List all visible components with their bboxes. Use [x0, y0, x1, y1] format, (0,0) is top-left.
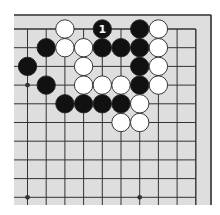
white-stone[interactable] [74, 76, 92, 94]
star-point [25, 83, 30, 88]
black-stone-disc [93, 95, 111, 113]
black-stone-disc [112, 39, 130, 57]
white-stone[interactable] [56, 20, 74, 38]
black-stone[interactable] [131, 20, 149, 38]
black-stone-disc [131, 20, 149, 38]
white-stone[interactable] [56, 39, 74, 57]
white-stone-disc [149, 20, 167, 38]
white-stone[interactable] [131, 95, 149, 113]
black-stone-disc [112, 95, 130, 113]
white-stone-disc [112, 113, 130, 131]
white-stone-disc [131, 113, 149, 131]
black-stone-disc [131, 76, 149, 94]
black-stone[interactable] [56, 95, 74, 113]
white-stone[interactable] [112, 76, 130, 94]
white-stone[interactable] [149, 39, 167, 57]
white-stone[interactable] [149, 76, 167, 94]
black-stone-disc [56, 95, 74, 113]
white-stone-disc [149, 39, 167, 57]
black-stone[interactable] [37, 39, 55, 57]
black-stone[interactable] [37, 76, 55, 94]
black-stone[interactable] [112, 95, 130, 113]
star-point [137, 195, 142, 200]
white-stone[interactable] [149, 57, 167, 75]
star-point [25, 195, 30, 200]
black-stone-disc [18, 57, 36, 75]
white-stone-disc [131, 95, 149, 113]
white-stone-disc [56, 39, 74, 57]
black-stone[interactable] [131, 57, 149, 75]
black-stone[interactable] [18, 57, 36, 75]
white-stone[interactable] [149, 20, 167, 38]
white-stone[interactable] [131, 113, 149, 131]
black-stone[interactable] [131, 76, 149, 94]
white-stone-disc [74, 39, 92, 57]
black-stone[interactable] [131, 39, 149, 57]
white-stone-disc [74, 76, 92, 94]
white-stone-disc [112, 76, 130, 94]
white-stone-disc [149, 57, 167, 75]
white-stone[interactable] [112, 113, 130, 131]
white-stone-disc [74, 57, 92, 75]
white-stone-disc [149, 76, 167, 94]
black-stone[interactable] [74, 95, 92, 113]
black-stone[interactable]: 1 [93, 20, 111, 38]
move-number-label: 1 [98, 23, 106, 36]
black-stone-disc [74, 95, 92, 113]
white-stone[interactable] [93, 76, 111, 94]
white-stone-disc [56, 20, 74, 38]
white-stone-disc [93, 76, 111, 94]
white-stone[interactable] [74, 39, 92, 57]
black-stone[interactable] [93, 39, 111, 57]
black-stone[interactable] [112, 39, 130, 57]
black-stone-disc [93, 39, 111, 57]
black-stone-disc [131, 39, 149, 57]
white-stone[interactable] [74, 57, 92, 75]
black-stone-disc [131, 57, 149, 75]
black-stone-disc [37, 76, 55, 94]
black-stone[interactable] [93, 95, 111, 113]
black-stone-disc [37, 39, 55, 57]
go-board: 1 [0, 0, 220, 215]
